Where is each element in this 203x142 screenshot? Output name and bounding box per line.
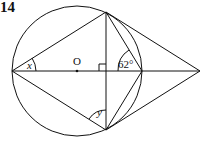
right-angle-marker: [99, 64, 106, 71]
geometry-diagram: 14 O x y 62°: [0, 0, 203, 142]
chord-bottom-right: [106, 71, 142, 130]
angle-x-arc: [32, 58, 36, 71]
chord-left-bottom: [12, 71, 106, 130]
diagram-canvas: [0, 0, 203, 142]
angle-y-label: y: [97, 107, 102, 118]
tangent-bottom: [106, 71, 200, 130]
center-point: [76, 70, 79, 73]
center-label: O: [73, 56, 81, 67]
angle-62-label: 62°: [118, 59, 133, 70]
question-number: 14: [0, 0, 15, 15]
angle-x-label: x: [27, 60, 32, 71]
